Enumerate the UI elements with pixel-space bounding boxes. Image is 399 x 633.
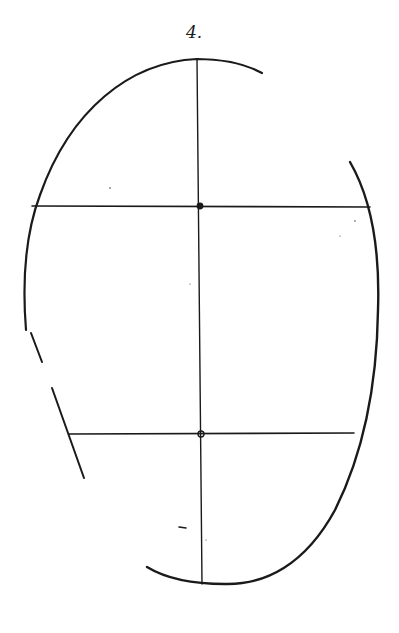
head-top-arc (24, 59, 262, 330)
head-right-arc (147, 162, 378, 584)
speck (189, 283, 190, 284)
head-outline-diagram (0, 0, 399, 633)
speck (354, 220, 356, 222)
speck (205, 539, 206, 540)
head-left-segment-lower (52, 388, 84, 478)
speck (339, 235, 340, 236)
vertical-axis-line (197, 59, 202, 584)
lower-horizontal-line (69, 433, 354, 434)
small-tick-mark (179, 527, 186, 528)
speck (109, 187, 111, 189)
upper-center-dot-marker (197, 203, 204, 210)
head-left-segment-upper (31, 333, 42, 362)
